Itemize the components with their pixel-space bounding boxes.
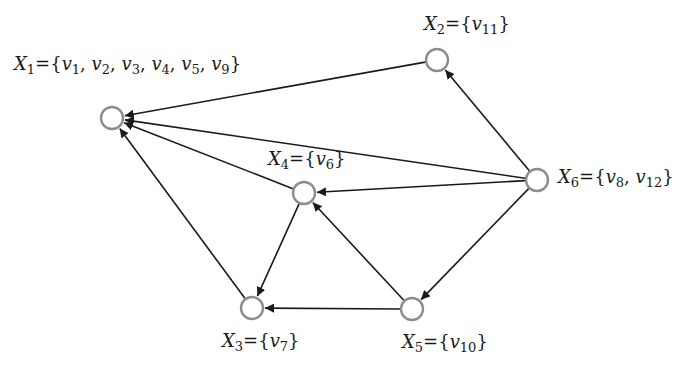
label-x2: X2={v11}	[424, 15, 510, 36]
edges	[120, 62, 530, 309]
node-x2	[426, 49, 448, 71]
edge-x6-to-x4	[317, 181, 525, 193]
node-x3	[241, 297, 263, 319]
label-x3: X3={v7}	[222, 332, 300, 353]
label-x4: X4={v6}	[268, 150, 346, 171]
edge-x5-to-x4	[313, 203, 404, 301]
node-x6	[526, 169, 548, 191]
node-x4	[293, 182, 315, 204]
edge-x3-to-x1	[120, 128, 245, 298]
edge-x6-to-x5	[421, 189, 529, 300]
node-x5	[401, 298, 423, 320]
label-x6: X6={v8, v12}	[558, 168, 674, 189]
label-x1: X1={v1, v2, v3, v4, v5, v9}	[14, 55, 241, 76]
label-x5: X5={v10}	[402, 333, 488, 354]
node-x1	[101, 107, 123, 129]
nodes	[101, 49, 548, 320]
edge-x6-to-x2	[445, 70, 529, 171]
edge-x4-to-x3	[257, 204, 299, 296]
edge-x5-to-x3	[265, 308, 400, 309]
